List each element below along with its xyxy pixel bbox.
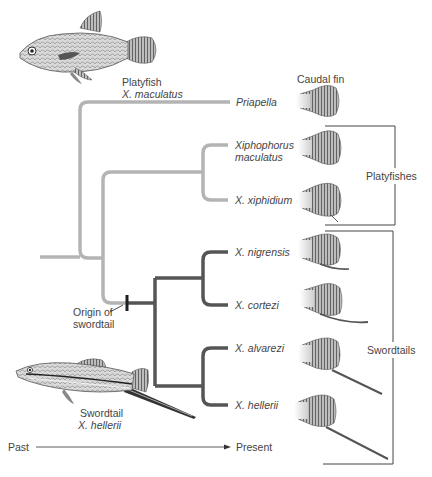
- taxon-x-hellerii: X. hellerii: [235, 399, 278, 411]
- origin-label-line2: swordtail: [73, 318, 114, 330]
- caudal-fin-x-nigrensis: [298, 234, 349, 269]
- swordtail-species-name: X. hellerii: [78, 419, 121, 431]
- time-axis-past-label: Past: [8, 441, 29, 453]
- caudal-fin-x-cortezi: [300, 283, 368, 322]
- taxon-x-xiphidium: X. xiphidium: [235, 194, 292, 206]
- swordtail-common-name: Swordtail: [80, 407, 123, 419]
- taxon-x-cortezi: X. cortezi: [235, 299, 279, 311]
- caudal-fin-x-xiphidium: [298, 183, 341, 222]
- taxon-xiphophorus-maculatus-line2: maculatus: [235, 151, 283, 163]
- platyfish-illustration: [20, 11, 156, 84]
- platyfishes-bracket-label: Platyfishes: [366, 168, 417, 184]
- time-axis-present-label: Present: [236, 441, 272, 453]
- caudal-fin-xiphophorus-maculatus: [298, 131, 341, 165]
- platyfish-common-name: Platyfish: [122, 76, 162, 88]
- tree-svg: [0, 0, 432, 477]
- caudal-fin-priapella: [296, 85, 339, 116]
- time-axis-arrow: [36, 445, 231, 450]
- taxon-x-alvarezi: X. alvarezi: [235, 342, 284, 354]
- taxon-priapella: Priapella: [236, 96, 277, 108]
- origin-label-line1: Origin of: [73, 306, 113, 318]
- platyfish-species-name: X. maculatus: [122, 88, 183, 100]
- taxon-x-nigrensis: X. nigrensis: [235, 246, 290, 258]
- swordtails-bracket-label: Swordtails: [367, 342, 415, 358]
- taxon-xiphophorus-maculatus-line1: Xiphophorus: [235, 139, 294, 151]
- caudal-fin-x-hellerii: [294, 395, 388, 459]
- phylogeny-figure: Platyfish X. maculatus Caudal fin Priape…: [0, 0, 432, 477]
- caudal-fin-header: Caudal fin: [297, 73, 344, 85]
